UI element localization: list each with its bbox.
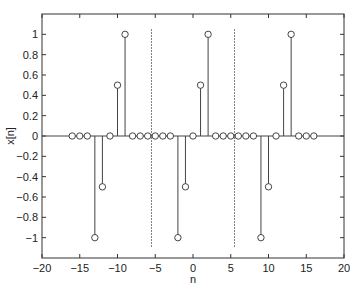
x-tick-label: 15 bbox=[300, 262, 312, 274]
x-axis-label: n bbox=[190, 273, 196, 285]
stem-marker bbox=[288, 31, 294, 37]
x-tick-label: 10 bbox=[262, 262, 274, 274]
stem-marker bbox=[77, 133, 83, 139]
stem-marker bbox=[114, 82, 120, 88]
stem-plot: −20−15−10−505101520−1−0.8−0.6−0.4−0.200.… bbox=[0, 0, 356, 291]
stem-marker bbox=[243, 133, 249, 139]
stem-marker bbox=[69, 133, 75, 139]
stem-marker bbox=[129, 133, 135, 139]
stem-marker bbox=[311, 133, 317, 139]
y-tick-label: 0.8 bbox=[23, 49, 38, 61]
y-tick-label: 0.6 bbox=[23, 69, 38, 81]
stem-marker bbox=[273, 133, 279, 139]
plot-area: −20−15−10−505101520−1−0.8−0.6−0.4−0.200.… bbox=[16, 14, 350, 274]
x-tick-label: 20 bbox=[338, 262, 350, 274]
stem-marker bbox=[280, 82, 286, 88]
stem-marker bbox=[303, 133, 309, 139]
y-tick-label: −0.4 bbox=[16, 171, 38, 183]
x-tick-label: −5 bbox=[149, 262, 162, 274]
x-tick-label: −20 bbox=[33, 262, 52, 274]
stem-marker bbox=[92, 234, 98, 240]
stem-marker bbox=[190, 133, 196, 139]
y-tick-label: −0.2 bbox=[16, 150, 38, 162]
stem-marker bbox=[235, 133, 241, 139]
x-tick-label: 5 bbox=[228, 262, 234, 274]
y-axis-label: x[n] bbox=[4, 127, 16, 145]
y-tick-label: 0 bbox=[32, 130, 38, 142]
stem-marker bbox=[167, 133, 173, 139]
stem-marker bbox=[258, 234, 264, 240]
stem-marker bbox=[175, 234, 181, 240]
stem-marker bbox=[296, 133, 302, 139]
stem-marker bbox=[122, 31, 128, 37]
stem-marker bbox=[107, 133, 113, 139]
stem-marker bbox=[220, 133, 226, 139]
x-tick-label: −15 bbox=[70, 262, 89, 274]
stem-marker bbox=[137, 133, 143, 139]
stem-marker bbox=[265, 184, 271, 190]
y-tick-label: −0.6 bbox=[16, 191, 38, 203]
stem-marker bbox=[99, 184, 105, 190]
stem-marker bbox=[160, 133, 166, 139]
stem-marker bbox=[250, 133, 256, 139]
y-tick-label: −0.8 bbox=[16, 211, 38, 223]
stem-marker bbox=[84, 133, 90, 139]
stem-marker bbox=[212, 133, 218, 139]
y-tick-label: 0.4 bbox=[23, 89, 38, 101]
y-tick-label: 0.2 bbox=[23, 110, 38, 122]
stem-marker bbox=[182, 184, 188, 190]
stem-marker bbox=[205, 31, 211, 37]
stem-marker bbox=[228, 133, 234, 139]
y-tick-label: −1 bbox=[25, 232, 38, 244]
stem-marker bbox=[145, 133, 151, 139]
stem-marker bbox=[152, 133, 158, 139]
y-tick-label: 1 bbox=[32, 28, 38, 40]
x-tick-label: −10 bbox=[108, 262, 127, 274]
stem-marker bbox=[197, 82, 203, 88]
